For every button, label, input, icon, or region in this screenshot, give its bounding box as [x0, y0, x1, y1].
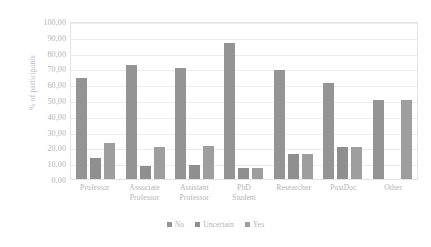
- bar: [274, 70, 285, 179]
- bar-group: [170, 23, 219, 179]
- bar: [401, 100, 412, 179]
- y-axis-tick-label: 90,00: [48, 33, 67, 42]
- bar: [90, 158, 101, 179]
- y-axis-tick-label: 70,00: [48, 65, 67, 74]
- y-axis-tick-label: 80,00: [48, 49, 67, 58]
- bar: [288, 154, 299, 179]
- y-axis-tick-label: 40,00: [48, 112, 67, 121]
- bar-group: [368, 23, 417, 179]
- y-axis-tick-label: 30,00: [48, 128, 67, 137]
- bar-group: [71, 23, 120, 179]
- legend-label: Yes: [253, 220, 264, 229]
- y-axis-tick-label: 10,00: [48, 160, 67, 169]
- x-axis-category-label: PostDoc: [319, 183, 369, 202]
- x-axis-category-label: AssistantProfessor: [169, 183, 219, 202]
- legend-item[interactable]: Yes: [245, 220, 264, 229]
- legend-item[interactable]: Uncertain: [195, 220, 234, 229]
- legend-swatch-icon: [245, 222, 250, 227]
- y-axis-tick-labels: 100,0090,0080,0070,0060,0050,0040,0030,0…: [30, 22, 66, 180]
- bar: [351, 147, 362, 179]
- bar-group: [269, 23, 318, 179]
- bar-group: [120, 23, 169, 179]
- legend-swatch-icon: [195, 222, 200, 227]
- bar: [154, 147, 165, 179]
- bar-group: [318, 23, 367, 179]
- y-axis-tick-label: 0,00: [52, 176, 66, 185]
- bar: [252, 168, 263, 179]
- plot-area: [70, 22, 418, 180]
- bar: [373, 100, 384, 179]
- legend-item[interactable]: No: [167, 220, 184, 229]
- bar: [302, 154, 313, 179]
- bar: [126, 65, 137, 179]
- chart-legend: NoUncertainYes: [0, 220, 431, 229]
- bar: [224, 43, 235, 179]
- x-axis-category-label: PhDStudent: [219, 183, 269, 202]
- legend-label: No: [175, 220, 184, 229]
- bar: [76, 78, 87, 179]
- bar: [238, 168, 249, 179]
- x-axis-category-labels: ProfessorAssociateProfessorAssistantProf…: [70, 183, 418, 202]
- bar-group: [219, 23, 268, 179]
- y-axis-tick-label: 60,00: [48, 81, 67, 90]
- y-axis-tick-label: 100,00: [43, 18, 66, 27]
- bar: [189, 165, 200, 179]
- x-axis-category-label: Other: [368, 183, 418, 202]
- bar-chart: % of participants 100,0090,0080,0070,006…: [0, 0, 431, 247]
- y-axis-tick-label: 50,00: [48, 97, 67, 106]
- legend-label: Uncertain: [203, 220, 234, 229]
- x-axis-category-label: Professor: [70, 183, 120, 202]
- y-axis-tick-label: 20,00: [48, 144, 67, 153]
- x-axis-category-label: Researcher: [269, 183, 319, 202]
- bar: [323, 83, 334, 179]
- bar: [140, 166, 151, 179]
- bar: [203, 146, 214, 179]
- legend-swatch-icon: [167, 222, 172, 227]
- bar: [337, 147, 348, 179]
- bar: [104, 143, 115, 179]
- x-axis-category-label: AssociateProfessor: [120, 183, 170, 202]
- bar-groups: [71, 23, 417, 179]
- bar: [175, 68, 186, 179]
